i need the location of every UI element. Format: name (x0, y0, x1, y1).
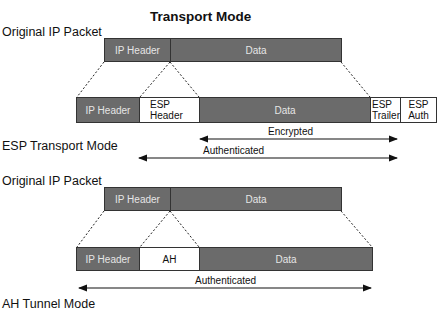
dotted-connector (140, 211, 170, 247)
dotted-connector (170, 62, 199, 97)
dotted-connector (77, 211, 104, 247)
dotted-connector (341, 62, 370, 97)
connector-lines (0, 0, 446, 320)
dotted-connector (341, 211, 372, 247)
dotted-connector (170, 211, 199, 247)
dotted-connector (140, 62, 170, 97)
dotted-connector (77, 62, 104, 97)
